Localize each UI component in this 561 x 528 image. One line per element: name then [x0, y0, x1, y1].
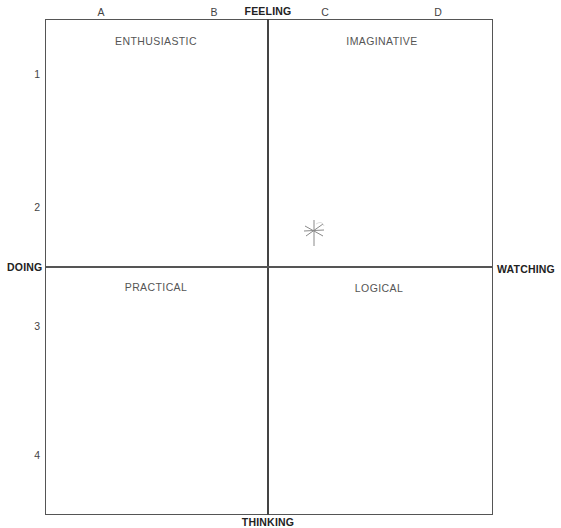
- column-label-d: D: [434, 6, 442, 18]
- quadrant-label-practical: PRACTICAL: [125, 281, 188, 293]
- column-label-a: A: [97, 6, 104, 18]
- quadrant-label-logical: LOGICAL: [355, 282, 403, 294]
- horizontal-divider: [45, 266, 493, 268]
- column-label-c: C: [321, 6, 329, 18]
- axis-label-thinking: THINKING: [242, 516, 294, 528]
- row-label-3: 3: [26, 320, 40, 332]
- axis-label-feeling: FEELING: [245, 5, 292, 17]
- quadrant-label-enthusiastic: ENTHUSIASTIC: [115, 35, 197, 47]
- row-label-2: 2: [26, 201, 40, 213]
- column-label-b: B: [210, 6, 217, 18]
- axis-label-watching: WATCHING: [497, 263, 555, 275]
- asterisk-marker-icon: [302, 218, 326, 248]
- axis-label-doing: DOING: [7, 261, 42, 273]
- quadrant-label-imaginative: IMAGINATIVE: [346, 35, 417, 47]
- row-label-1: 1: [26, 68, 40, 80]
- row-label-4: 4: [26, 449, 40, 461]
